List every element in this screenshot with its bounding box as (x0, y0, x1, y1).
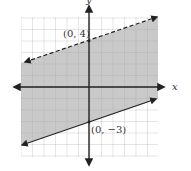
y-intercept-upper-point (88, 40, 91, 43)
lower-point-label: (0, −3) (91, 124, 126, 135)
upper-point-label: (0, 4) (63, 28, 90, 39)
y-axis-label: y (85, 0, 92, 5)
coordinate-plane: (0, 4) (0, −3) x y (0, 0, 191, 171)
x-axis-label: x (172, 81, 178, 92)
y-intercept-lower-point (88, 121, 91, 124)
